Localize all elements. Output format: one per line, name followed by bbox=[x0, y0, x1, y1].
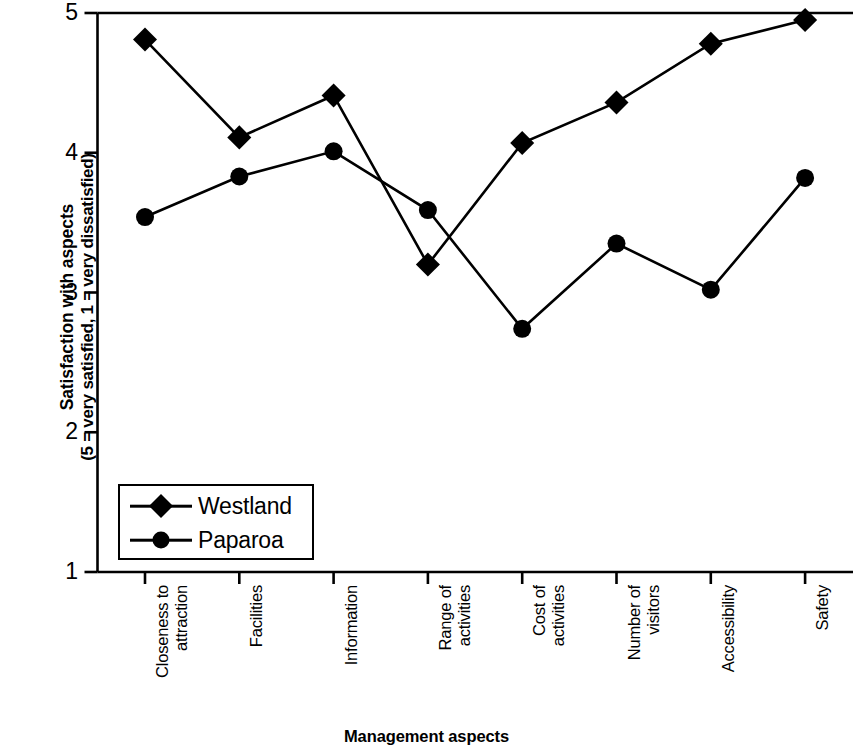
x-tick-label-3: Range of activities bbox=[436, 585, 474, 735]
x-tick-label-1: Facilities bbox=[247, 585, 266, 735]
legend: Westland Paparoa bbox=[118, 484, 314, 560]
data-point-circle bbox=[325, 142, 343, 160]
data-point-circle bbox=[230, 168, 248, 186]
data-point-diamond bbox=[604, 90, 628, 114]
x-tick-label-5: Number of visitors bbox=[625, 585, 663, 735]
legend-item-westland: Westland bbox=[120, 489, 312, 523]
legend-item-paparoa: Paparoa bbox=[120, 523, 312, 557]
data-series-layer bbox=[133, 8, 817, 338]
data-point-diamond bbox=[699, 32, 723, 56]
x-tick-label-4: Cost of activities bbox=[530, 585, 568, 735]
y-tick-label-2: 2 bbox=[38, 420, 78, 443]
x-tick-label-7: Safety bbox=[813, 585, 832, 735]
data-point-circle bbox=[419, 201, 437, 219]
data-point-circle bbox=[513, 320, 531, 338]
x-tick-label-6: Accessibility bbox=[719, 585, 738, 735]
data-point-diamond bbox=[416, 253, 440, 277]
y-tick-label-4: 4 bbox=[38, 141, 78, 164]
diamond-marker-icon bbox=[128, 491, 194, 521]
series-paparoa bbox=[136, 142, 814, 337]
x-axis-title: Management aspects bbox=[0, 727, 853, 746]
x-tick-label-2: Information bbox=[342, 585, 361, 735]
data-point-diamond bbox=[322, 83, 346, 107]
data-point-circle bbox=[796, 169, 814, 187]
x-tick-label-0: Closeness to attraction bbox=[153, 585, 191, 735]
data-point-circle bbox=[136, 208, 154, 226]
data-point-circle bbox=[608, 235, 626, 253]
line-chart: Satisfaction with aspects (5 = very sati… bbox=[0, 0, 853, 754]
y-tick-label-5: 5 bbox=[38, 1, 78, 24]
data-point-diamond bbox=[793, 8, 817, 32]
data-point-circle bbox=[702, 281, 720, 299]
y-tick-label-3: 3 bbox=[38, 281, 78, 304]
series-westland bbox=[133, 8, 817, 277]
data-point-diamond bbox=[510, 131, 534, 155]
y-tick-label-1: 1 bbox=[38, 560, 78, 583]
circle-marker-icon bbox=[128, 525, 194, 555]
legend-label-paparoa: Paparoa bbox=[198, 529, 284, 552]
legend-label-westland: Westland bbox=[198, 495, 292, 518]
